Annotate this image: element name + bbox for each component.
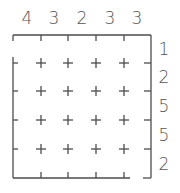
puzzle-board: 4 3 2 3 3 1 2 5 5 2 <box>0 0 180 193</box>
grid-cell-r2c5[interactable] <box>124 64 151 92</box>
top-clue-2: 3 <box>44 8 64 28</box>
grid-cell-r5c5[interactable] <box>124 150 151 178</box>
right-clue-5: 2 <box>154 154 174 174</box>
top-clue-5: 3 <box>127 8 147 28</box>
grid-cell-r1c3[interactable] <box>69 36 96 64</box>
top-clue-1: 4 <box>17 8 37 28</box>
right-clue-2: 2 <box>154 67 174 87</box>
grid-cell-r5c2[interactable] <box>41 150 68 178</box>
grid-cell-r1c4[interactable] <box>96 36 123 64</box>
grid-cell-r3c4[interactable] <box>96 92 123 120</box>
grid-cell-r5c1[interactable] <box>14 150 41 178</box>
grid-cell-r3c2[interactable] <box>41 92 68 120</box>
grid-cell-r1c5[interactable] <box>124 36 151 64</box>
grid-cell-r3c5[interactable] <box>124 92 151 120</box>
grid-cell-r1c1[interactable] <box>14 36 41 64</box>
grid-cell-r2c1[interactable] <box>14 64 41 92</box>
grid-cell-r3c1[interactable] <box>14 92 41 120</box>
grid-cell-r2c2[interactable] <box>41 64 68 92</box>
grid-cell-r3c3[interactable] <box>69 92 96 120</box>
grid-cell-r5c4[interactable] <box>96 150 123 178</box>
grid-cell-r2c3[interactable] <box>69 64 96 92</box>
grid-cell-r4c1[interactable] <box>14 121 41 149</box>
grid-cell-r2c4[interactable] <box>96 64 123 92</box>
grid-cell-r4c5[interactable] <box>124 121 151 149</box>
right-clue-1: 1 <box>154 39 174 59</box>
top-clue-4: 3 <box>100 8 120 28</box>
grid-cell-r1c2[interactable] <box>41 36 68 64</box>
right-clue-3: 5 <box>154 96 174 116</box>
grid-cell-r4c4[interactable] <box>96 121 123 149</box>
top-clue-3: 2 <box>72 8 92 28</box>
right-clue-4: 5 <box>154 125 174 145</box>
grid-cell-r4c3[interactable] <box>69 121 96 149</box>
grid-cell-r5c3[interactable] <box>69 150 96 178</box>
grid-cell-r4c2[interactable] <box>41 121 68 149</box>
